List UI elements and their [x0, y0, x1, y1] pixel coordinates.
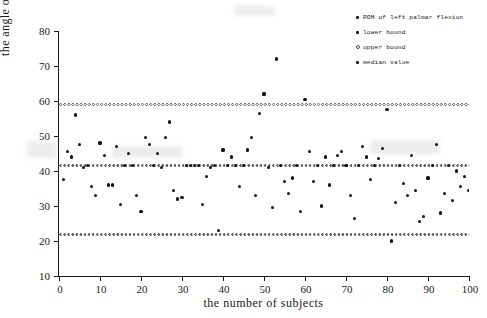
x-axis-tick-label: 0	[57, 283, 63, 295]
y-axis-tick: 50	[54, 136, 59, 137]
data-point	[299, 210, 302, 213]
data-point	[258, 112, 261, 115]
legend-item-rom: ROM of left palmar flexion	[356, 10, 463, 25]
data-point	[180, 196, 183, 199]
legend-item-lower-bound: lower bound	[356, 25, 463, 40]
data-point	[402, 182, 405, 185]
x-axis-tick: 50	[264, 276, 265, 281]
x-axis-tick: 80	[387, 276, 388, 281]
y-axis-title: the angle of left palmar flexion(degree)	[0, 0, 13, 56]
data-point	[201, 203, 204, 206]
x-axis-tick: 90	[428, 276, 429, 281]
legend-ring-icon	[356, 44, 363, 51]
x-axis-tick-label: 50	[260, 283, 271, 295]
data-point	[340, 150, 343, 153]
data-point	[267, 166, 270, 169]
legend-label: upper bound	[363, 44, 406, 51]
legend-dot-icon	[356, 29, 363, 36]
data-point	[410, 154, 413, 157]
x-axis-tick: 100	[469, 276, 470, 281]
data-point	[406, 194, 409, 197]
data-point	[66, 150, 69, 153]
y-axis-tick: 80	[54, 31, 59, 32]
x-axis-tick-label: 20	[137, 283, 148, 295]
data-point	[308, 150, 311, 153]
data-point	[74, 113, 77, 116]
data-point	[103, 154, 106, 157]
data-point	[344, 164, 347, 167]
y-axis-tick-label: 60	[39, 94, 50, 109]
data-point	[250, 136, 253, 139]
data-point	[435, 143, 438, 146]
data-point	[144, 136, 147, 139]
data-point	[303, 98, 306, 101]
x-axis-tick-label: 90	[424, 283, 435, 295]
y-axis-tick-label: 20	[39, 234, 50, 249]
x-axis-tick: 70	[346, 276, 347, 281]
data-point	[394, 201, 397, 204]
y-axis-tick-label: 30	[39, 199, 50, 214]
legend-dot-icon	[356, 59, 363, 66]
x-axis-tick-label: 80	[383, 283, 394, 295]
data-point	[115, 145, 118, 148]
reference-line-median-value	[59, 164, 469, 167]
y-axis-tick-label: 40	[39, 164, 50, 179]
data-point	[271, 206, 274, 209]
data-point	[111, 183, 114, 186]
reference-line-upper-bound	[59, 103, 469, 107]
x-axis-tick-label: 70	[342, 283, 353, 295]
data-point	[62, 178, 65, 181]
y-axis-tick: 20	[54, 241, 59, 242]
legend-dot-icon	[356, 14, 363, 21]
data-point	[127, 152, 130, 155]
data-point	[156, 152, 159, 155]
data-point	[414, 189, 417, 192]
data-point	[262, 92, 265, 95]
data-point	[78, 143, 81, 146]
scan-smudge	[27, 142, 57, 158]
x-axis-tick-label: 60	[301, 283, 312, 295]
y-axis-tick: 70	[54, 66, 59, 67]
data-point	[390, 239, 393, 242]
data-point	[283, 180, 286, 183]
data-point	[426, 176, 429, 179]
data-point	[324, 155, 327, 158]
data-point	[119, 203, 122, 206]
x-axis-tick-label: 10	[96, 283, 107, 295]
chart-page: the angle of left palmar flexion(degree)…	[0, 0, 487, 318]
data-point	[385, 108, 388, 111]
data-point	[275, 57, 278, 60]
data-point	[94, 194, 97, 197]
x-axis-tick: 0	[59, 276, 60, 281]
data-point	[467, 189, 469, 192]
y-axis-tick: 60	[54, 101, 59, 102]
x-axis-tick-label: 30	[178, 283, 189, 295]
data-point	[164, 136, 167, 139]
data-point	[176, 197, 179, 200]
y-axis-tick: 40	[54, 171, 59, 172]
legend-label: lower bound	[363, 29, 406, 36]
data-point	[361, 145, 364, 148]
data-point	[246, 148, 249, 151]
data-point	[148, 143, 151, 146]
data-point	[418, 220, 421, 223]
data-point	[98, 141, 101, 144]
x-axis-tick-label: 40	[219, 283, 230, 295]
y-axis-tick-label: 10	[39, 269, 50, 284]
data-point	[443, 192, 446, 195]
data-point	[287, 192, 290, 195]
data-point	[320, 204, 323, 207]
legend-label: median value	[363, 59, 409, 66]
x-axis-title: the number of subjects	[58, 296, 469, 311]
data-point	[381, 147, 384, 150]
y-axis-tick-label: 70	[39, 59, 50, 74]
y-axis-tick: 30	[54, 206, 59, 207]
data-point	[455, 169, 458, 172]
y-axis-tick-label: 50	[39, 129, 50, 144]
data-point	[209, 166, 212, 169]
x-axis-tick: 60	[305, 276, 306, 281]
data-point	[422, 215, 425, 218]
chart-legend: ROM of left palmar flexion lower bound u…	[356, 10, 463, 70]
data-point	[365, 155, 368, 158]
data-point	[82, 166, 85, 169]
